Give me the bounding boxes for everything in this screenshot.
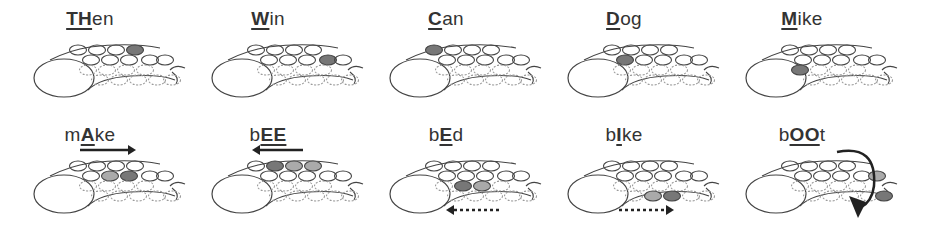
phoneme-word: Win (178, 8, 358, 30)
contact-point (617, 171, 634, 181)
contact-point (842, 75, 859, 85)
contact-point (474, 65, 491, 75)
panel-bee: bEE (178, 116, 358, 232)
contact-point (820, 161, 837, 171)
contact-point (127, 161, 144, 171)
contact-point (299, 171, 316, 181)
arrow-left-icon (252, 145, 303, 155)
contact-point (642, 45, 659, 55)
phoneme-word: bIke (534, 124, 714, 146)
contact-point (604, 161, 621, 171)
panel-then: THen (0, 0, 180, 116)
contact-point (315, 65, 332, 75)
arrow-right-icon (80, 145, 136, 155)
contact-point (477, 171, 494, 181)
highlighted-phoneme: A (81, 124, 95, 145)
contact-point (261, 55, 278, 65)
panel-boot: bOOt (712, 116, 892, 232)
highlighted-phoneme: EE (260, 124, 286, 145)
contact-point (127, 45, 144, 55)
contact-point (869, 171, 886, 181)
phoneme-word: Can (356, 8, 536, 30)
contact-point (636, 171, 653, 181)
contact-point (426, 45, 443, 55)
contact-point (70, 161, 87, 171)
highlighted-phoneme: M (781, 8, 797, 29)
contact-point (121, 55, 138, 65)
contact-point (652, 181, 669, 191)
word-fragment: ike (797, 8, 822, 29)
contact-point (102, 171, 119, 181)
contact-point (814, 171, 831, 181)
word-fragment: en (92, 8, 114, 29)
contact-point (795, 55, 812, 65)
panel-bed: bEd (356, 116, 536, 232)
contact-point (486, 75, 503, 85)
contact-point (99, 65, 116, 75)
contact-point (486, 191, 503, 201)
contact-point (655, 55, 672, 65)
contact-point (315, 181, 332, 191)
contact-point (305, 45, 322, 55)
contact-point (849, 181, 866, 191)
dotted-arrow-right-icon (619, 205, 674, 215)
contact-point (296, 181, 313, 191)
panel-can: Can (356, 0, 536, 116)
contact-point (121, 171, 138, 181)
contact-point (130, 75, 147, 85)
contact-point (308, 191, 325, 201)
contact-point (464, 161, 481, 171)
phoneme-word: bOOt (712, 124, 892, 146)
contact-point (102, 55, 119, 65)
contact-point (261, 171, 278, 181)
contact-point (108, 45, 125, 55)
contact-point (458, 171, 475, 181)
contact-point (299, 55, 316, 65)
highlighted-phoneme: C (428, 8, 442, 29)
word-fragment: an (442, 8, 464, 29)
contact-point (493, 65, 510, 75)
contact-point (833, 55, 850, 65)
word-fragment: b (250, 124, 261, 145)
contact-point (633, 181, 650, 191)
contact-point (305, 161, 322, 171)
mouth-oval (746, 59, 806, 97)
word-fragment: ke (622, 124, 643, 145)
word-fragment: d (452, 124, 463, 145)
phoneme-word: Mike (712, 8, 892, 30)
contact-point (477, 55, 494, 65)
contact-point (645, 191, 662, 201)
contact-point (118, 181, 135, 191)
contact-point (70, 45, 87, 55)
contact-point (296, 65, 313, 75)
contact-point (248, 161, 265, 171)
contact-point (83, 171, 100, 181)
phoneme-word: Dog (534, 8, 714, 30)
contact-point (636, 55, 653, 65)
contact-point (839, 45, 856, 55)
panel-make: mAke (0, 116, 180, 232)
contact-point (814, 55, 831, 65)
highlighted-phoneme: TH (66, 8, 92, 29)
contact-point (83, 55, 100, 65)
contact-point (426, 161, 443, 171)
contact-point (99, 181, 116, 191)
contact-point (604, 45, 621, 55)
mouth-oval (568, 59, 628, 97)
phoneme-word: bEd (356, 124, 536, 146)
word-fragment: b (429, 124, 440, 145)
contact-point (633, 65, 650, 75)
mouth-oval (390, 59, 450, 97)
contact-point (849, 65, 866, 75)
contact-point (458, 55, 475, 65)
word-fragment: b (779, 124, 790, 145)
contact-point (782, 161, 799, 171)
word-fragment: ke (95, 124, 116, 145)
word-fragment: t (820, 124, 826, 145)
highlighted-phoneme: OO (790, 124, 820, 145)
contact-point (455, 65, 472, 75)
word-fragment: m (65, 124, 81, 145)
contact-point (642, 161, 659, 171)
contact-point (455, 181, 472, 191)
contact-point (286, 161, 303, 171)
